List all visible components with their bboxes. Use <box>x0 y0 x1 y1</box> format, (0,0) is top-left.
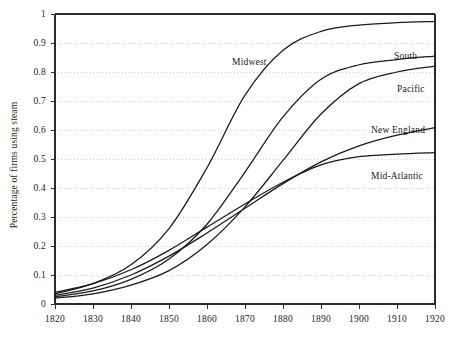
y-axis-tick-label: 0.4 <box>0 183 46 193</box>
x-axis-tick-label: 1850 <box>159 314 179 324</box>
y-axis-tick-label: 0.6 <box>0 125 46 135</box>
x-axis-tick-label: 1830 <box>83 314 103 324</box>
y-axis-tick-label: 0.8 <box>0 67 46 77</box>
x-axis-tick-label: 1900 <box>349 314 369 324</box>
x-axis-tick-label: 1890 <box>311 314 331 324</box>
series-label-pacific: Pacific <box>397 84 425 94</box>
x-axis-tick-label: 1870 <box>235 314 255 324</box>
y-axis-tick-label: 1 <box>0 9 46 19</box>
series-label-midwest: Midwest <box>232 57 267 67</box>
y-axis-tick-label: 0.3 <box>0 212 46 222</box>
series-label-new-england: New England <box>371 125 425 135</box>
y-axis-tick-label: 0.2 <box>0 241 46 251</box>
y-axis-tick-label: 0.1 <box>0 270 46 280</box>
series-label-south: South <box>394 51 417 61</box>
x-axis-tick-label: 1840 <box>121 314 141 324</box>
x-axis-tick-label: 1820 <box>45 314 65 324</box>
chart-container: Percentage of firms using steam 00.10.20… <box>0 0 464 343</box>
gridlines <box>55 43 435 275</box>
series-label-mid-atlantic: Mid-Atlantic <box>371 171 423 181</box>
x-axis-tick-label: 1920 <box>425 314 445 324</box>
y-axis-tick-label: 0.5 <box>0 154 46 164</box>
x-axis-tick-label: 1880 <box>273 314 293 324</box>
y-axis-tick-label: 0.7 <box>0 96 46 106</box>
x-axis-tick-label: 1910 <box>387 314 407 324</box>
y-axis-tick-label: 0.9 <box>0 38 46 48</box>
y-axis-title: Percentage of firms using steam <box>9 65 19 265</box>
x-axis-tick-label: 1860 <box>197 314 217 324</box>
y-axis-tick-label: 0 <box>0 299 46 309</box>
